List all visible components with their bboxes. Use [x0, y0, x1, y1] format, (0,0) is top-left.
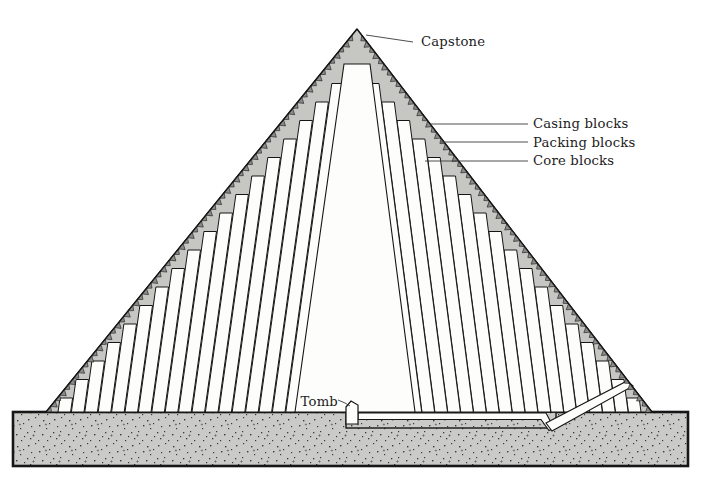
label-core-blocks: Core blocks — [533, 153, 614, 168]
label-capstone: Capstone — [421, 34, 485, 49]
pyramid-cross-section-figure: Capstone Casing blocks Packing blocks Co… — [0, 0, 722, 489]
pyramid-diagram: Capstone Casing blocks Packing blocks Co… — [0, 0, 722, 489]
label-casing-blocks: Casing blocks — [533, 116, 628, 131]
label-tomb: Tomb — [301, 394, 338, 409]
capstone-leader-line — [366, 35, 413, 42]
pyramid-body — [46, 29, 652, 412]
label-packing-blocks: Packing blocks — [533, 135, 635, 150]
